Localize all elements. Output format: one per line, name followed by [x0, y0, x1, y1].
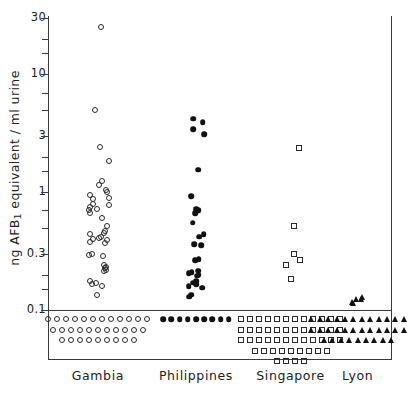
non-detect-point-gambia — [86, 337, 92, 343]
y-axis-major-tick — [41, 74, 48, 75]
data-point-singapore — [283, 262, 289, 268]
non-detect-point-gambia — [68, 337, 74, 343]
data-point-philippines — [192, 257, 198, 263]
non-detect-point-singapore — [247, 327, 253, 333]
y-axis-tick-labels: 3010310.30.1 — [8, 0, 46, 400]
data-point-lyon — [349, 299, 355, 305]
non-detect-point-lyon — [359, 327, 365, 333]
non-detect-point-philippines — [177, 316, 183, 322]
x-axis-label-philippines: Philippines — [159, 368, 233, 383]
y-axis-minor-tick — [42, 93, 48, 94]
non-detect-point-lyon — [376, 327, 382, 333]
non-detect-point-lyon — [334, 316, 340, 322]
data-point-singapore — [288, 276, 294, 282]
non-detect-point-singapore — [283, 358, 289, 364]
data-point-gambia — [94, 292, 100, 298]
data-point-gambia — [100, 253, 106, 259]
non-detect-point-gambia — [59, 337, 65, 343]
non-detect-point-singapore — [274, 358, 280, 364]
non-detect-point-gambia — [135, 316, 141, 322]
data-point-gambia — [94, 206, 100, 212]
data-point-philippines — [190, 127, 196, 133]
data-point-philippines — [192, 211, 198, 217]
non-detect-point-gambia — [72, 316, 78, 322]
non-detect-point-singapore — [265, 316, 271, 322]
non-detect-point-gambia — [54, 316, 60, 322]
y-axis-tick-label: 3 — [16, 128, 46, 142]
data-point-singapore — [291, 223, 297, 229]
data-point-philippines — [198, 242, 204, 248]
y-axis-minor-tick — [42, 289, 48, 290]
dot-plot-figure: ng AFB1 equivalent / ml urine 3010310.30… — [0, 0, 414, 400]
data-point-gambia — [99, 283, 105, 289]
non-detect-point-singapore — [247, 316, 253, 322]
data-point-philippines — [201, 231, 207, 237]
non-detect-point-gambia — [113, 327, 119, 333]
data-point-gambia — [101, 268, 107, 274]
non-detect-point-singapore — [274, 327, 280, 333]
y-axis-tick-label: 0.1 — [16, 302, 46, 316]
non-detect-point-gambia — [117, 316, 123, 322]
non-detect-point-philippines — [160, 316, 166, 322]
non-detect-point-philippines — [185, 316, 191, 322]
y-axis-minor-tick — [42, 210, 48, 211]
data-point-singapore — [296, 145, 302, 151]
data-point-philippines — [196, 234, 202, 240]
data-point-philippines — [188, 194, 194, 200]
x-axis-label-singapore: Singapore — [256, 368, 324, 383]
non-detect-point-philippines — [218, 316, 224, 322]
data-point-lyon — [359, 294, 365, 300]
data-point-gambia — [87, 210, 93, 216]
non-detect-point-singapore — [274, 337, 280, 343]
non-detect-point-lyon — [380, 337, 386, 343]
non-detect-point-lyon — [371, 337, 377, 343]
non-detect-point-lyon — [342, 327, 348, 333]
data-point-gambia — [87, 239, 93, 245]
non-detect-point-gambia — [113, 337, 119, 343]
data-point-philippines — [191, 242, 197, 248]
data-point-gambia — [89, 281, 95, 287]
data-point-singapore — [297, 257, 303, 263]
axis-frame — [48, 16, 392, 360]
data-point-philippines — [186, 283, 192, 289]
data-point-philippines — [190, 220, 196, 226]
y-axis-major-tick — [41, 192, 48, 193]
non-detect-point-lyon — [401, 327, 407, 333]
non-detect-point-singapore — [265, 327, 271, 333]
non-detect-point-gambia — [99, 316, 105, 322]
non-detect-point-gambia — [104, 337, 110, 343]
non-detect-point-singapore — [238, 337, 244, 343]
y-axis-minor-tick — [42, 39, 48, 40]
non-detect-point-lyon — [308, 327, 314, 333]
non-detect-point-gambia — [77, 337, 83, 343]
data-point-philippines — [186, 270, 192, 276]
y-axis-minor-tick — [42, 53, 48, 54]
non-detect-point-lyon — [376, 316, 382, 322]
non-detect-point-singapore — [256, 337, 262, 343]
data-point-gambia — [86, 252, 92, 258]
non-detect-point-gambia — [144, 316, 150, 322]
data-point-gambia — [96, 182, 102, 188]
non-detect-point-singapore — [270, 348, 276, 354]
non-detect-point-singapore — [310, 337, 316, 343]
data-point-gambia — [97, 144, 103, 150]
non-detect-point-philippines — [226, 316, 232, 322]
non-detect-point-lyon — [367, 316, 373, 322]
non-detect-point-gambia — [50, 327, 56, 333]
non-detect-point-lyon — [392, 327, 398, 333]
non-detect-point-gambia — [90, 316, 96, 322]
non-detect-point-singapore — [256, 327, 262, 333]
data-point-philippines — [202, 131, 208, 137]
y-axis-minor-tick — [42, 171, 48, 172]
non-detect-point-singapore — [292, 316, 298, 322]
data-point-gambia — [99, 215, 105, 221]
non-detect-point-singapore — [261, 348, 267, 354]
non-detect-point-gambia — [122, 327, 128, 333]
data-point-gambia — [92, 107, 98, 113]
non-detect-point-lyon — [384, 316, 390, 322]
data-point-singapore — [291, 251, 297, 257]
data-point-philippines — [195, 167, 201, 173]
non-detect-point-lyon — [401, 316, 407, 322]
y-axis-minor-tick — [42, 275, 48, 276]
plot-area — [48, 16, 392, 360]
